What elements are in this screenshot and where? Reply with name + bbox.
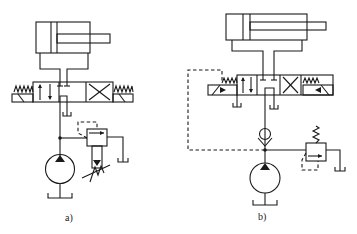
cylinder-b [226, 14, 326, 40]
pump-b [250, 163, 280, 205]
circuit-b [188, 14, 345, 205]
relief-valve-b [302, 126, 345, 171]
pump-a [46, 155, 75, 199]
cylinder-a [36, 22, 110, 53]
hydraulic-circuit-diagram [0, 0, 357, 234]
directional-valve-b [208, 75, 333, 95]
relief-valve-a [78, 122, 128, 182]
caption-b: b) [258, 211, 266, 222]
circuit-a [12, 22, 133, 198]
directional-valve-a [12, 82, 133, 102]
caption-a: a) [65, 212, 73, 223]
